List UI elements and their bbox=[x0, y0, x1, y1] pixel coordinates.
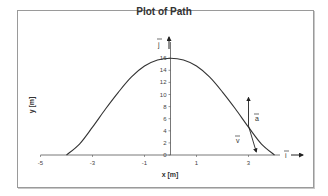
y-tick-label: 8 bbox=[163, 104, 167, 110]
unit-vector-i-label: i bbox=[285, 152, 287, 159]
a-vector-label: a bbox=[255, 115, 259, 122]
x-tick-label: -5 bbox=[38, 160, 44, 166]
x-tick-label: -1 bbox=[142, 160, 148, 166]
plot-area: -5-3-1130246810121416 av x [m] y [m] i j bbox=[0, 0, 328, 196]
y-tick-label: 2 bbox=[163, 140, 167, 146]
y-tick-label: 10 bbox=[160, 92, 167, 98]
y-axis-label: y [m] bbox=[28, 97, 36, 114]
v-vector-arrow bbox=[249, 126, 257, 152]
x-tick-label: 1 bbox=[195, 160, 199, 166]
y-tick-label: 12 bbox=[160, 79, 167, 85]
x-axis-label: x [m] bbox=[162, 171, 179, 179]
y-tick-label: 4 bbox=[163, 128, 167, 134]
y-tick-label: 6 bbox=[163, 116, 167, 122]
x-tick-label: -3 bbox=[90, 160, 96, 166]
x-tick-label: 3 bbox=[247, 160, 251, 166]
unit-vector-j-label: j bbox=[157, 41, 160, 49]
y-tick-label: 14 bbox=[160, 67, 167, 73]
v-vector-label: v bbox=[236, 137, 240, 144]
